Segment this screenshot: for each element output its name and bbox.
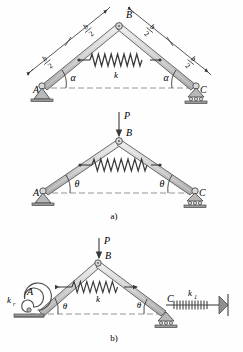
member-AB-top <box>42 24 121 90</box>
spring-label-k-top: k <box>114 70 119 80</box>
wall-anchor-k1 <box>219 294 228 316</box>
angle-label-theta-A-middle: θ <box>75 178 80 189</box>
svg-text:k: k <box>188 288 193 298</box>
joint-label-A-bottom: A <box>26 286 34 297</box>
svg-text:2: 2 <box>87 29 96 39</box>
angle-label-alpha-A: α <box>70 72 76 83</box>
ground-base-A-bottom <box>14 314 44 317</box>
joint-label-B-bottom: B <box>105 250 111 261</box>
spring-label-k-bottom: k <box>96 294 101 304</box>
member-AB-middle <box>43 140 121 195</box>
panel-bottom: P k k r <box>7 235 228 343</box>
mechanics-figure-svg: k α α A B C <box>0 0 243 352</box>
svg-text:1: 1 <box>194 294 197 300</box>
member-BC-top <box>117 24 196 90</box>
joint-label-C-middle: C <box>199 187 206 198</box>
svg-text:k: k <box>7 295 12 305</box>
svg-text:2: 2 <box>184 61 193 71</box>
angle-label-theta-C-middle: θ <box>160 178 165 189</box>
spring-label-k1: k 1 <box>188 288 197 300</box>
panel-top: k α α A B C <box>27 7 211 104</box>
member-BC-bottom <box>96 262 166 316</box>
svg-text:r: r <box>13 301 16 307</box>
caption-a: a) <box>111 211 118 221</box>
angle-label-theta-A-bottom: θ <box>63 301 68 311</box>
caption-b: b) <box>110 333 118 343</box>
load-label-P-middle: P <box>123 110 130 121</box>
angle-label-theta-C-bottom: θ <box>137 300 142 310</box>
svg-text:2: 2 <box>46 61 55 71</box>
joint-label-B-middle: B <box>126 127 132 138</box>
dim-label-b2-BC-lower: b 2 <box>182 53 200 72</box>
dim-label-b2-AB-lower: b 2 <box>39 53 57 72</box>
member-BC-middle <box>117 140 195 195</box>
svg-text:2: 2 <box>143 29 152 39</box>
joint-label-C-bottom: C <box>167 293 174 304</box>
load-label-P-bottom: P <box>103 235 110 246</box>
angle-label-alpha-C: α <box>163 72 169 83</box>
linear-spring-k1 <box>166 301 219 310</box>
spring-label-kr: k r <box>7 295 16 307</box>
joint-label-A-middle: A <box>32 187 40 198</box>
panel-middle: P θ θ A B C <box>32 110 206 221</box>
figure-canvas: k α α A B C <box>0 0 243 352</box>
